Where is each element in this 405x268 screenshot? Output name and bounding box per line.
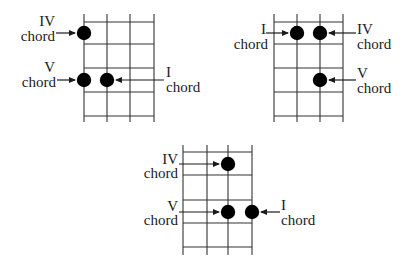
chord-word-label: chord	[234, 36, 269, 52]
finger-dot-iv-chord	[313, 26, 327, 40]
chord-numeral-label: V	[357, 65, 368, 81]
chord-diagram-canvas: IVchordVchordIchordIchordIVchordVchordIV…	[0, 0, 405, 268]
fretboard-top-left: IVchordVchordIchord	[21, 13, 201, 122]
chord-word-label: chord	[21, 28, 56, 44]
chord-numeral-label: I	[281, 197, 286, 213]
chord-word-label: chord	[281, 212, 316, 228]
chord-word-label: chord	[357, 80, 392, 96]
chord-word-label: chord	[166, 79, 201, 95]
chord-numeral-label: I	[261, 21, 266, 37]
chord-word-label: chord	[357, 36, 392, 52]
finger-dot-iv-chord	[221, 157, 235, 171]
finger-dot-v-chord	[221, 205, 235, 219]
chord-numeral-label: IV	[39, 13, 55, 29]
chord-numeral-label: V	[44, 59, 55, 75]
finger-dot-i-chord	[290, 26, 304, 40]
chord-word-label: chord	[22, 74, 57, 90]
fretboard-bottom-center: IVchordVchordIchord	[144, 145, 316, 255]
finger-dot-iv-chord	[77, 26, 91, 40]
finger-dot-i-chord	[245, 205, 259, 219]
chord-numeral-label: I	[166, 64, 171, 80]
chord-numeral-label: IV	[357, 21, 373, 37]
chord-word-label: chord	[144, 165, 179, 181]
finger-dot-v-chord	[77, 73, 91, 87]
chord-word-label: chord	[144, 212, 179, 228]
fretboard-top-right: IchordIVchordVchord	[234, 14, 392, 122]
finger-dot-i-chord	[100, 73, 114, 87]
finger-dot-v-chord	[313, 73, 327, 87]
